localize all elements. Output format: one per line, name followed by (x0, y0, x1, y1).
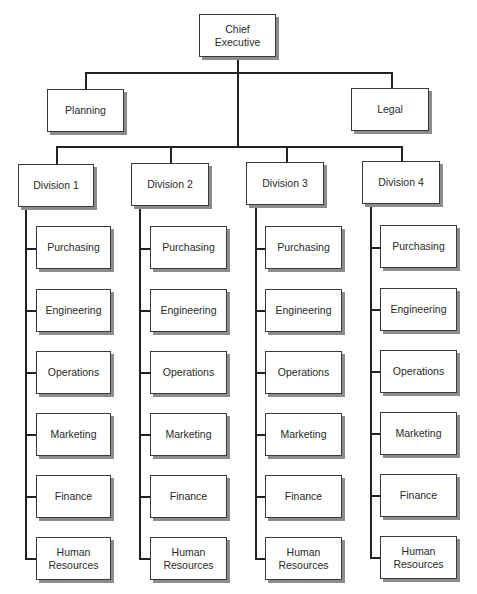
node-function: Human Resources (265, 537, 342, 580)
connector (255, 558, 265, 560)
node-label: Human Resources (278, 546, 328, 572)
node-function: Purchasing (265, 226, 342, 269)
connector (25, 496, 36, 498)
node-function: Engineering (36, 289, 111, 332)
node-label: Marketing (50, 428, 96, 441)
node-function: Operations (380, 350, 457, 393)
connector (255, 310, 265, 312)
node-function: Finance (36, 475, 111, 518)
division-4-spine (370, 204, 372, 558)
connector (85, 72, 87, 89)
connector (391, 72, 393, 88)
node-division-4: Division 4 (362, 161, 440, 204)
connector (85, 72, 391, 74)
connector (237, 57, 239, 147)
node-function: Marketing (265, 413, 342, 456)
node-function: Human Resources (150, 537, 227, 580)
node-function: Human Resources (380, 536, 457, 579)
node-function: Human Resources (36, 537, 111, 580)
division-2-spine (139, 206, 141, 559)
node-function: Engineering (150, 289, 227, 332)
node-legal: Legal (351, 88, 429, 131)
node-function: Marketing (380, 412, 457, 455)
node-planning: Planning (47, 89, 124, 132)
node-label: Purchasing (162, 241, 215, 254)
division-3-spine (255, 205, 257, 559)
connector (255, 372, 265, 374)
node-label: Purchasing (392, 240, 445, 253)
connector (25, 310, 36, 312)
connector (25, 248, 36, 250)
connector (370, 495, 380, 497)
connector (139, 434, 150, 436)
node-label: Marketing (395, 427, 441, 440)
node-function: Operations (150, 351, 227, 394)
division-1-spine (25, 207, 27, 559)
connector (139, 372, 150, 374)
node-label: Legal (377, 103, 403, 116)
node-function: Engineering (265, 289, 342, 332)
node-label: Marketing (280, 428, 326, 441)
node-label: Finance (285, 490, 322, 503)
connector (370, 433, 380, 435)
node-label: Finance (400, 489, 437, 502)
connector (255, 434, 265, 436)
connector (139, 310, 150, 312)
connector (25, 558, 36, 560)
node-label: Engineering (275, 304, 331, 317)
connector (255, 496, 265, 498)
node-function: Finance (380, 474, 457, 517)
node-label: Division 1 (33, 179, 79, 192)
connector (25, 372, 36, 374)
node-label: Engineering (390, 303, 446, 316)
connector (170, 146, 172, 163)
connector (401, 146, 403, 161)
connector (56, 146, 402, 148)
node-label: Human Resources (393, 545, 443, 571)
connector (370, 247, 380, 249)
node-function: Purchasing (150, 226, 227, 269)
node-label: Operations (278, 366, 329, 379)
node-label: Division 4 (378, 176, 424, 189)
connector (286, 146, 288, 162)
node-function: Purchasing (380, 225, 457, 268)
node-label: Human Resources (48, 546, 98, 572)
connector (370, 371, 380, 373)
connector (255, 248, 265, 250)
node-label: Purchasing (47, 241, 100, 254)
node-label: Division 3 (262, 177, 308, 190)
node-function: Finance (150, 475, 227, 518)
node-function: Marketing (36, 413, 111, 456)
node-label: Engineering (45, 304, 101, 317)
connector (370, 557, 380, 559)
node-label: Division 2 (147, 178, 193, 191)
node-label: Chief Executive (215, 23, 261, 49)
node-function: Purchasing (36, 226, 111, 269)
connector (25, 434, 36, 436)
node-label: Operations (163, 366, 214, 379)
connector (139, 558, 150, 560)
node-label: Marketing (165, 428, 211, 441)
node-function: Operations (265, 351, 342, 394)
node-label: Purchasing (277, 241, 330, 254)
node-label: Engineering (160, 304, 216, 317)
node-division-1: Division 1 (18, 164, 94, 207)
connector (56, 146, 58, 164)
connector (139, 496, 150, 498)
node-function: Finance (265, 475, 342, 518)
node-label: Finance (170, 490, 207, 503)
node-chief-executive: Chief Executive (199, 14, 276, 57)
node-function: Marketing (150, 413, 227, 456)
connector (139, 248, 150, 250)
node-label: Human Resources (163, 546, 213, 572)
node-function: Operations (36, 351, 111, 394)
node-division-3: Division 3 (246, 162, 324, 205)
node-label: Operations (48, 366, 99, 379)
node-division-2: Division 2 (131, 163, 209, 206)
node-function: Engineering (380, 288, 457, 331)
connector (370, 309, 380, 311)
node-label: Finance (55, 490, 92, 503)
node-label: Operations (393, 365, 444, 378)
node-label: Planning (65, 104, 106, 117)
